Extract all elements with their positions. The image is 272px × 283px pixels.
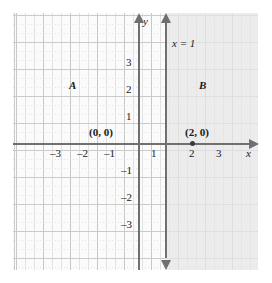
- coordinate-plane-figure: –3 –2 –1 1 2 3 3 2 1 –1 –2 –3 x y (0, 0)…: [0, 0, 272, 283]
- x-tick-label--1: –1: [104, 147, 115, 159]
- x-axis: [13, 143, 249, 145]
- y-tick-label--1: –1: [121, 164, 132, 176]
- y-tick-label--2: –2: [121, 191, 132, 203]
- boundary-equation-label: x = 1: [172, 37, 195, 49]
- y-tick-label-2: 2: [126, 83, 132, 95]
- x-tick-label-3: 3: [216, 147, 222, 159]
- x-tick-label-2: 2: [189, 147, 195, 159]
- x-tick-label--3: –3: [50, 147, 61, 159]
- region-label-b: B: [199, 79, 206, 91]
- x-tick-label--2: –2: [77, 147, 88, 159]
- y-tick-label--3: –3: [121, 218, 132, 230]
- x-tick-label-1: 1: [151, 147, 157, 159]
- boundary-line-top-arrow: [161, 13, 171, 23]
- plot-area: –3 –2 –1 1 2 3 3 2 1 –1 –2 –3 x y (0, 0)…: [13, 13, 258, 270]
- boundary-line-x-equals-1: [165, 22, 167, 258]
- x-axis-label: x: [246, 147, 251, 159]
- y-tick-label-1: 1: [126, 110, 132, 122]
- point-2-0-label: (2, 0): [185, 126, 209, 138]
- y-axis-label: y: [143, 15, 148, 27]
- y-axis: [138, 22, 140, 270]
- y-tick-label-3: 3: [126, 56, 132, 68]
- boundary-line-bottom-arrow: [161, 260, 171, 270]
- shaded-region-x-ge-1: [165, 13, 258, 270]
- origin-point-label: (0, 0): [89, 126, 113, 138]
- region-label-a: A: [69, 79, 76, 91]
- point-marker-2-0: [190, 141, 195, 146]
